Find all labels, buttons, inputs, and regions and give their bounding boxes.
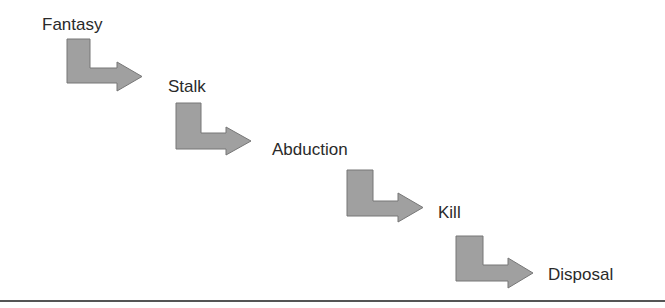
stage-label-abduction: Abduction <box>272 141 348 158</box>
elbow-arrow-icon <box>67 39 142 91</box>
elbow-arrow-icon <box>347 170 423 222</box>
stage-label-kill: Kill <box>438 204 461 221</box>
elbow-arrow-icon <box>176 103 251 155</box>
stage-label-stalk: Stalk <box>168 78 206 95</box>
bottom-divider <box>0 300 665 302</box>
stage-label-fantasy: Fantasy <box>42 16 102 33</box>
stage-label-disposal: Disposal <box>548 266 613 283</box>
elbow-arrow-icon <box>456 236 533 288</box>
